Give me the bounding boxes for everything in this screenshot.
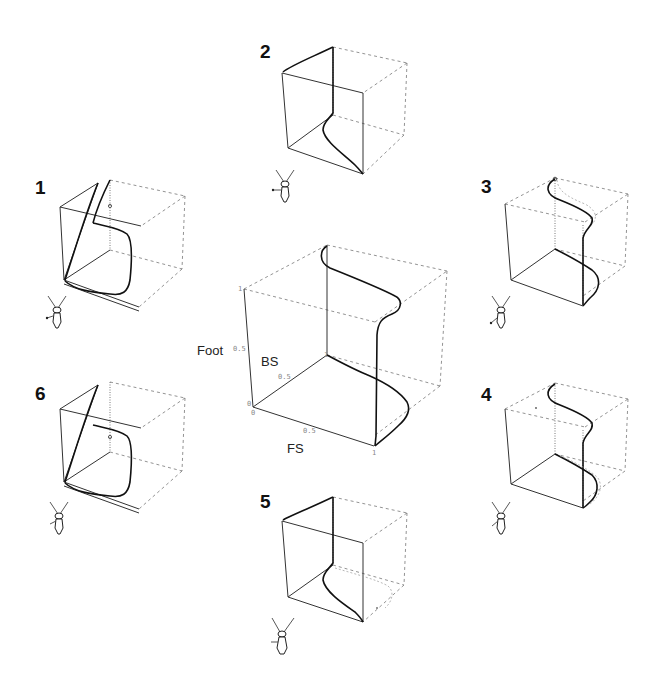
axis-label-foot: Foot (197, 343, 223, 358)
insect-icon-6 (50, 502, 68, 534)
panel-label-4: 4 (481, 384, 492, 405)
panel-1-cube (60, 180, 185, 311)
panel-5-cube (282, 497, 407, 622)
panel-label-1: 1 (35, 177, 46, 198)
insect-icon-4 (492, 502, 510, 534)
insect-icon-3 (490, 296, 510, 328)
panel-label-2: 2 (260, 41, 271, 62)
panel-label-6: 6 (35, 383, 46, 404)
axis-label-fs: FS (287, 441, 304, 456)
panel-2-cube (282, 47, 407, 174)
tick-vertical-0: 0 (247, 400, 251, 408)
tick-depth-1: 1 (324, 351, 328, 359)
center-cube (244, 245, 447, 446)
tick-vertical-0.5: 0.5 (233, 345, 246, 353)
axis-label-bs: BS (261, 354, 279, 369)
tick-horizontal-0.5: 0.5 (303, 427, 316, 435)
figure-canvas: Foot BS FS 1 0.5 0 0.5 1 0 0.5 1 2 1 (0, 0, 660, 699)
panel-6-cube (60, 382, 185, 513)
tick-vertical-1: 1 (238, 285, 242, 293)
panel-4-cube (505, 383, 628, 508)
tick-horizontal-0: 0 (251, 409, 255, 417)
insect-icon-2 (272, 170, 294, 202)
insect-icon-5 (271, 618, 294, 654)
panel-label-3: 3 (481, 176, 492, 197)
panel-label-5: 5 (260, 491, 271, 512)
tick-depth-0.5: 0.5 (278, 373, 291, 381)
panel-3-cube (505, 177, 628, 306)
tick-horizontal-1: 1 (372, 449, 376, 457)
insect-icon-1 (46, 296, 66, 328)
